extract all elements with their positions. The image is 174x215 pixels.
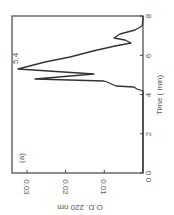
od-tick-label-0: 0 [144,178,153,183]
od-axis-label: O.D. 220 nm [57,203,103,212]
panel-label: (a) [17,153,26,163]
time-tick-label-8: 8 [144,13,153,18]
od-tick-label-0.02: 0.02 [61,179,70,195]
time-tick-label-6: 6 [144,53,153,58]
time-axis-label: Time ( min) [155,75,164,115]
od-axis: 0 0.01 0.02 0.03 O.D. 220 nm [22,170,153,212]
chromatogram-chart: 0 2 4 6 8 Time ( min) 0 0.01 0.02 0.03 O… [0,0,174,215]
chromatogram-trace [18,16,143,173]
time-tick-label-2: 2 [144,131,153,136]
peak-annotation: 5.4 [11,52,20,64]
od-tick-label-0.01: 0.01 [99,179,108,195]
time-tick-label-0: 0 [144,170,153,175]
time-tick-label-4: 4 [144,92,153,97]
od-tick-label-0.03: 0.03 [22,179,31,195]
